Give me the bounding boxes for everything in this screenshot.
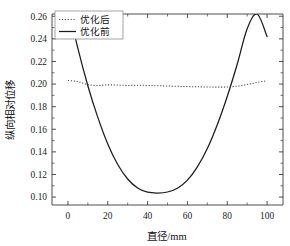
chart-figure: 0.100.120.140.160.180.200.220.240.26 020… bbox=[0, 0, 290, 246]
y-tick-label: 0.12 bbox=[31, 170, 48, 180]
y-tick-label: 0.26 bbox=[31, 12, 48, 22]
x-tick-label: 100 bbox=[260, 211, 274, 221]
x-tick-label: 0 bbox=[66, 211, 71, 221]
y-axis-ticks: 0.100.120.140.160.180.200.220.240.26 bbox=[31, 12, 283, 203]
legend-label-after: 优化后 bbox=[80, 14, 110, 25]
x-tick-label: 80 bbox=[223, 211, 233, 221]
y-tick-label: 0.18 bbox=[31, 102, 48, 112]
y-tick-label: 0.16 bbox=[31, 125, 48, 135]
x-axis-ticks: 020406080100 bbox=[66, 14, 275, 221]
y-tick-label: 0.10 bbox=[31, 192, 48, 202]
y-tick-label: 0.22 bbox=[31, 57, 48, 67]
legend[interactable]: 优化后 优化前 bbox=[55, 11, 123, 39]
x-tick-label: 60 bbox=[183, 211, 193, 221]
y-tick-label: 0.24 bbox=[31, 34, 48, 44]
y-axis-title: 纵向相对位移 bbox=[4, 79, 16, 140]
y-axis-title-group: 纵向相对位移 bbox=[4, 79, 16, 140]
series-line-after bbox=[68, 80, 267, 87]
legend-label-before: 优化前 bbox=[80, 26, 110, 37]
x-tick-label: 20 bbox=[103, 211, 113, 221]
y-tick-label: 0.14 bbox=[31, 147, 48, 157]
line-chart: 0.100.120.140.160.180.200.220.240.26 020… bbox=[0, 0, 290, 246]
plot-frame bbox=[52, 14, 283, 205]
x-tick-label: 40 bbox=[143, 211, 153, 221]
y-tick-label: 0.20 bbox=[31, 79, 48, 89]
x-axis-title: 直径/mm bbox=[147, 230, 186, 242]
